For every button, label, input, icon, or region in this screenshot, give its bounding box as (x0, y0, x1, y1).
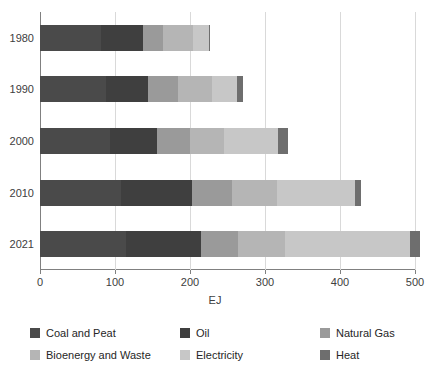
bar-segment[interactable] (193, 25, 209, 51)
y-axis-tick-label: 1990 (0, 83, 34, 95)
x-axis-tick-label: 100 (95, 276, 135, 289)
y-axis-tick-label: 2000 (0, 135, 34, 147)
bar-segment[interactable] (224, 128, 278, 154)
bar-segment[interactable] (40, 25, 101, 51)
bar-segment[interactable] (190, 128, 224, 154)
legend-label: Electricity (196, 349, 243, 361)
bar-segment[interactable] (157, 128, 190, 154)
bar-segment[interactable] (163, 25, 193, 51)
x-axis-tick-label: 200 (170, 276, 210, 289)
x-axis-tick (340, 270, 341, 274)
bar-segment[interactable] (355, 180, 361, 206)
bar-segment[interactable] (238, 231, 285, 257)
bar-segment[interactable] (110, 128, 157, 154)
x-axis-tick (40, 270, 41, 274)
x-axis-tick (190, 270, 191, 274)
bar-row[interactable] (40, 25, 210, 51)
legend-label: Bioenergy and Waste (46, 349, 151, 361)
bar-segment[interactable] (410, 231, 420, 257)
x-axis-tick-label: 0 (20, 276, 60, 289)
legend-swatch (320, 350, 330, 360)
legend-item[interactable]: Bioenergy and Waste (30, 349, 180, 361)
legend-label: Natural Gas (336, 327, 395, 339)
legend-swatch (180, 328, 190, 338)
y-axis-tick-label: 1980 (0, 32, 34, 44)
bar-segment[interactable] (40, 128, 110, 154)
legend-swatch (30, 328, 40, 338)
x-axis-tick-label: 500 (395, 276, 430, 289)
bar-segment[interactable] (201, 231, 238, 257)
legend-item[interactable]: Electricity (180, 349, 320, 361)
stacked-bar-chart: 19801990200020102021 0100200300400500 EJ… (0, 0, 430, 366)
bar-segment[interactable] (40, 231, 126, 257)
bar-segment[interactable] (40, 76, 106, 102)
bar-segment[interactable] (101, 25, 143, 51)
bar-segment[interactable] (148, 76, 178, 102)
bar-segment[interactable] (278, 128, 289, 154)
bar-row[interactable] (40, 180, 361, 206)
bar-row[interactable] (40, 231, 420, 257)
x-axis-title: EJ (0, 294, 430, 306)
bar-segment[interactable] (232, 180, 277, 206)
plot-area (40, 12, 415, 270)
x-axis-tick (265, 270, 266, 274)
legend-swatch (320, 328, 330, 338)
legend-label: Oil (196, 327, 209, 339)
chart-legend: Coal and PeatOilNatural GasBioenergy and… (30, 322, 425, 366)
bar-segment[interactable] (121, 180, 192, 206)
legend-swatch (30, 350, 40, 360)
bar-segment[interactable] (126, 231, 201, 257)
bar-segment[interactable] (285, 231, 410, 257)
legend-item[interactable]: Coal and Peat (30, 327, 180, 339)
bar-segment[interactable] (40, 180, 121, 206)
legend-item[interactable]: Heat (320, 349, 425, 361)
bar-segment[interactable] (277, 180, 355, 206)
legend-label: Heat (336, 349, 359, 361)
bar-segment[interactable] (209, 25, 210, 51)
bar-segment[interactable] (143, 25, 163, 51)
x-axis-tick (115, 270, 116, 274)
legend-swatch (180, 350, 190, 360)
bar-row[interactable] (40, 76, 243, 102)
y-axis-tick-label: 2021 (0, 238, 34, 250)
legend-item[interactable]: Natural Gas (320, 327, 425, 339)
bar-segment[interactable] (237, 76, 244, 102)
x-axis-tick-label: 300 (245, 276, 285, 289)
bar-segment[interactable] (192, 180, 232, 206)
x-axis-line (40, 269, 415, 270)
bar-segment[interactable] (106, 76, 148, 102)
bar-row[interactable] (40, 128, 288, 154)
bar-segment[interactable] (178, 76, 212, 102)
legend-item[interactable]: Oil (180, 327, 320, 339)
y-axis-tick-label: 2010 (0, 187, 34, 199)
x-axis-tick-label: 400 (320, 276, 360, 289)
legend-label: Coal and Peat (46, 327, 116, 339)
bar-segment[interactable] (212, 76, 237, 102)
x-axis-tick (415, 270, 416, 274)
